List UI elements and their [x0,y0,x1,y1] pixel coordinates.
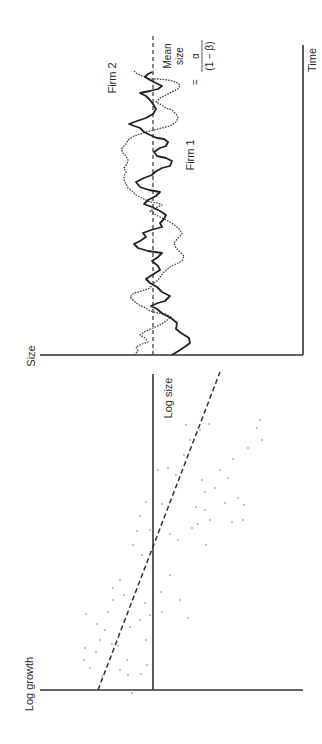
regression-line [98,372,220,690]
scatter-dot [83,659,85,661]
scatter-dot [95,651,97,653]
firm2-label: Firm 2 [106,62,118,93]
scatter-dot [242,519,244,521]
scatter-dot [160,591,162,593]
firm1-label: Firm 1 [184,139,196,170]
scatter-dot [227,477,229,479]
log-growth-axis-label: Log growth [23,657,35,711]
scatter-dot [132,544,134,546]
scatter-dot [261,439,263,441]
scatter-dot [177,539,179,541]
scatter-dot [204,509,206,511]
scatter-dot [139,515,141,517]
scatter-dot [141,554,143,556]
scatter-dot [199,429,201,431]
scatter-dot [99,639,101,641]
scatter-dot [145,501,147,503]
scatter-dot [189,439,191,441]
scatter-dot [161,611,163,613]
scatter-dot [112,599,114,601]
scatter-dot [119,579,121,581]
scatter-dot [175,474,177,476]
scatter-dot [84,647,86,649]
scatter-dot [231,521,233,523]
scatter-dot [96,623,98,625]
scatter-dot [185,424,187,426]
scatter-dot [183,454,185,456]
scatter-dot [247,447,249,449]
figure-canvas: Size Time Firm 2 Firm 1 Mean size = α (1… [0,0,322,744]
scatter-dot [256,427,258,429]
scatter-dot [126,659,128,661]
scatter-dot [119,669,121,671]
scatter-dot [140,673,142,675]
scatter-dot [111,643,113,645]
scatter-dot [187,617,189,619]
scatter-dot [209,519,211,521]
scatter-dot [127,674,129,676]
scatter-dot [195,506,197,508]
scatter-dot [191,527,193,529]
scatter-dot [112,587,114,589]
scatter-dot [104,629,106,631]
size-axis-label: Size [25,345,37,366]
scatter-dot [169,574,171,576]
mean-size-annotation: Mean size = α (1 − β) [162,40,215,85]
scatter-dot [208,423,210,425]
scatter-dot [89,667,91,669]
scatter-dot [123,594,125,596]
scatter-dot [243,504,245,506]
scatter-points [83,419,263,694]
scatter-dot [169,533,171,535]
scatter-dot [204,491,206,493]
log-size-axis-label: Log size [162,378,174,419]
scatter-dot [129,626,131,628]
scatter-dot [149,614,151,616]
scatter-dot [237,497,239,499]
scatter-dot [214,487,216,489]
equals-sign: = [190,79,201,85]
scatter-dot [145,639,147,641]
scatter-dot [167,467,169,469]
scatter-dot [157,469,159,471]
scatter-dot [224,502,226,504]
scatter-dot [131,692,133,694]
scatter-dot [144,602,146,604]
scatter-dot [136,530,138,532]
alpha-numerator: α [190,53,201,59]
size-word-label: size [174,47,185,65]
scatter-dot [139,619,141,621]
scatter-dot [85,613,87,615]
scatter-dot [149,529,151,531]
scatter-dot [201,479,203,481]
scatter-dot [197,523,199,525]
time-axis-label: Time [306,48,318,72]
scatter-dot [219,469,221,471]
scatter-dot [107,611,109,613]
one-minus-beta-denominator: (1 − β) [204,41,215,70]
scatter-panel: Log growth Log size [23,372,303,711]
scatter-dot [259,419,261,421]
scatter-dot [179,599,181,601]
mean-label: Mean [162,43,173,68]
scatter-dot [232,458,234,460]
scatter-dot [101,675,103,677]
time-series-panel: Size Time Firm 2 Firm 1 Mean size = α (1… [25,36,318,367]
scatter-dot [205,544,207,546]
scatter-dot [161,503,163,505]
scatter-dot [146,664,148,666]
scatter-dot [117,645,119,647]
